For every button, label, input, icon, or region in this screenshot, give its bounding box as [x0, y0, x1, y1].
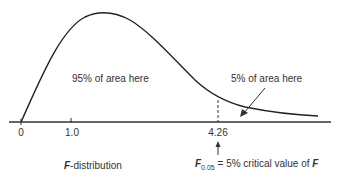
- critical-value-caption: F0.05 = 5% critical value of F: [195, 158, 318, 169]
- critical-value-arrowhead: [216, 141, 221, 147]
- tick-label-0: 0: [18, 127, 24, 138]
- critical-f-end-symbol: F: [312, 158, 318, 169]
- distribution-caption: F-distribution: [64, 160, 122, 171]
- left-area-label: 95% of area here: [72, 73, 149, 84]
- caption-rest: -distribution: [70, 160, 122, 171]
- density-curve: [21, 13, 318, 122]
- tick-label-1: 1.0: [65, 127, 79, 138]
- tick-label-critical: 4.26: [208, 127, 227, 138]
- critical-caption-rest: = 5% critical value of: [215, 158, 313, 169]
- right-area-label: 5% of area here: [231, 73, 302, 84]
- critical-subscript: 0.05: [201, 164, 215, 171]
